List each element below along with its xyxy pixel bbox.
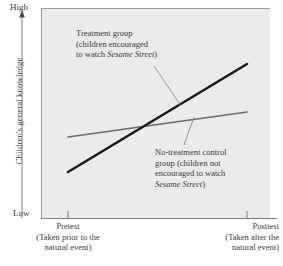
x-tick-posttest-sub2: natural event) bbox=[180, 242, 279, 253]
figure-container: High Low Children's general knowledge Pr… bbox=[0, 0, 283, 266]
annotation-control-group: No-treatment control group (children not… bbox=[155, 147, 227, 189]
x-tick-pretest: Pretest (Taken prior to the natural even… bbox=[0, 221, 136, 253]
annotation-control-line2: group (children not bbox=[155, 158, 227, 169]
x-tick-pretest-sub2: natural event) bbox=[0, 242, 136, 253]
annotation-treatment-show-title: Sesame Street bbox=[107, 49, 154, 59]
y-axis-title: Children's general knowledge bbox=[14, 36, 24, 186]
x-tick-posttest-name: Posttest bbox=[180, 221, 279, 232]
annotation-control-line3: encouraged to watch bbox=[155, 168, 227, 179]
x-tick-posttest-sub1: (Taken after the bbox=[180, 232, 279, 243]
annotation-treatment-group: Treatment group (children encouraged to … bbox=[76, 28, 157, 60]
annotation-treatment-line3: to watch Sesame Street) bbox=[76, 49, 157, 60]
annotation-control-line4-post: ) bbox=[202, 179, 205, 189]
annotation-treatment-line1: Treatment group bbox=[76, 28, 157, 39]
annotation-control-line1: No-treatment control bbox=[155, 147, 227, 158]
annotation-treatment-line3-pre: to watch bbox=[76, 49, 107, 59]
figure-caption-cropped bbox=[36, 259, 266, 264]
annotation-control-show-title: Sesame Street bbox=[155, 179, 202, 189]
annotation-treatment-line3-post: ) bbox=[154, 49, 157, 59]
annotation-control-line4: Sesame Street) bbox=[155, 179, 227, 190]
x-tick-posttest: Posttest (Taken after the natural event) bbox=[180, 221, 283, 253]
y-axis-high-label: High bbox=[10, 2, 28, 12]
x-tick-pretest-name: Pretest bbox=[0, 221, 136, 232]
x-tick-pretest-sub1: (Taken prior to the bbox=[0, 232, 136, 243]
annotation-treatment-line2: (children encouraged bbox=[76, 39, 157, 50]
y-axis-low-label: Low bbox=[13, 208, 30, 218]
